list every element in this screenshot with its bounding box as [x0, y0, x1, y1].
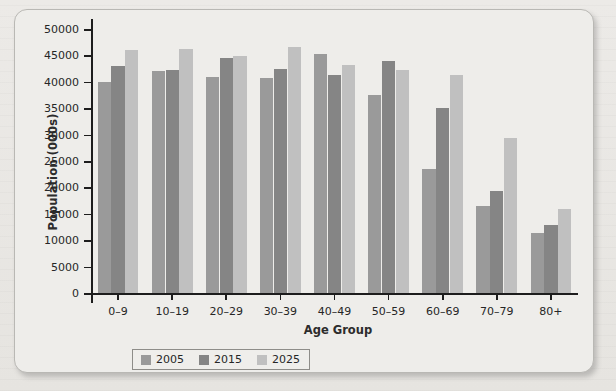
chart-legend: 2005 2015 2025	[132, 349, 310, 370]
bar-2015-10–19	[166, 70, 179, 293]
legend-swatch-2005	[141, 355, 151, 365]
x-axis-tick	[280, 293, 282, 300]
bar-2005-70–79	[476, 206, 489, 293]
bar-2005-50–59	[368, 95, 381, 293]
bar-2015-80+	[544, 225, 557, 293]
x-axis-tick	[171, 293, 173, 300]
legend-label-2005: 2005	[156, 353, 184, 366]
x-axis-tick	[388, 293, 390, 300]
y-axis-tick-label: 0	[72, 287, 79, 300]
bar-2025-70–79	[504, 138, 517, 293]
bar-2015-70–79	[490, 191, 503, 293]
bar-2025-80+	[558, 209, 571, 293]
x-axis-tick	[117, 293, 119, 300]
y-axis-tick-label: 35000	[44, 102, 79, 115]
y-axis-tick	[84, 240, 91, 242]
y-axis-line	[91, 19, 93, 303]
legend-label-2015: 2015	[214, 353, 242, 366]
y-axis-tick-label: 25000	[44, 155, 79, 168]
legend-item: 2005	[141, 353, 184, 366]
y-axis-tick	[84, 55, 91, 57]
x-axis-tick-label: 70–79	[480, 305, 514, 318]
legend-item: 2015	[199, 353, 242, 366]
legend-swatch-2015	[199, 355, 209, 365]
bar-2025-0–9	[125, 50, 138, 293]
y-axis-tick	[84, 161, 91, 163]
y-axis-tick-label: 40000	[44, 75, 79, 88]
plot-area: 0500010000150002000025000300003500040000…	[91, 29, 578, 293]
bar-2005-20–29	[206, 77, 219, 293]
x-axis-tick	[442, 293, 444, 300]
y-axis-tick-label: 10000	[44, 234, 79, 247]
x-axis-tick-label: 10–19	[155, 305, 189, 318]
y-axis-tick	[84, 214, 91, 216]
y-axis-tick	[84, 135, 91, 137]
y-axis-tick-label: 50000	[44, 23, 79, 36]
y-axis-tick-label: 30000	[44, 128, 79, 141]
y-axis-tick-label: 5000	[51, 260, 79, 273]
x-axis-tick	[550, 293, 552, 300]
bar-2025-10–19	[179, 49, 192, 293]
y-axis-tick-label: 45000	[44, 49, 79, 62]
bar-2015-30–39	[274, 69, 287, 293]
bar-2005-60–69	[422, 169, 435, 293]
y-axis-tick-label: 15000	[44, 207, 79, 220]
chart-figure: Population (000s) Age Group 050001000015…	[15, 10, 594, 373]
bar-2005-0–9	[98, 82, 111, 293]
legend-item: 2025	[257, 353, 300, 366]
x-axis-tick-label: 60–69	[426, 305, 460, 318]
y-axis-tick	[84, 82, 91, 84]
x-axis-tick-label: 50–59	[372, 305, 406, 318]
x-axis-tick-label: 0–9	[108, 305, 128, 318]
y-axis-tick	[84, 293, 91, 295]
x-axis-tick	[334, 293, 336, 300]
y-axis-tick-label: 20000	[44, 181, 79, 194]
bar-2005-80+	[531, 233, 544, 293]
legend-swatch-2025	[257, 355, 267, 365]
bar-2015-50–59	[382, 61, 395, 293]
bar-2015-40–49	[328, 75, 341, 293]
bar-2025-40–49	[342, 65, 355, 293]
x-axis-tick-label: 80+	[539, 305, 562, 318]
x-axis-tick	[496, 293, 498, 300]
bar-2005-40–49	[314, 54, 327, 293]
bar-2025-60–69	[450, 75, 463, 293]
x-axis-tick-label: 20–29	[210, 305, 244, 318]
bar-2025-50–59	[396, 70, 409, 293]
chart-card: Population (000s) Age Group 050001000015…	[14, 9, 594, 373]
x-axis-tick-label: 40–49	[318, 305, 352, 318]
bar-2015-60–69	[436, 108, 449, 293]
y-axis-tick	[84, 187, 91, 189]
bar-2025-30–39	[288, 47, 301, 293]
bar-2005-30–39	[260, 78, 273, 293]
x-axis-label: Age Group	[91, 323, 585, 337]
bar-2005-10–19	[152, 71, 165, 293]
legend-label-2025: 2025	[272, 353, 300, 366]
x-axis-tick	[225, 293, 227, 300]
x-axis-tick-label: 30–39	[264, 305, 298, 318]
y-axis-tick	[84, 29, 91, 31]
bar-2015-20–29	[220, 58, 233, 293]
y-axis-tick	[84, 267, 91, 269]
bar-2015-0–9	[111, 66, 124, 293]
y-axis-tick	[84, 108, 91, 110]
bar-2025-20–29	[233, 56, 246, 293]
